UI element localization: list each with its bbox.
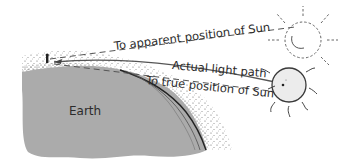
observer-icon (46, 53, 49, 63)
apparent-sun-icon (268, 6, 338, 65)
earth-label: Earth (69, 105, 101, 117)
refraction-diagram: To apparent position of Sun Actual light… (0, 0, 342, 167)
